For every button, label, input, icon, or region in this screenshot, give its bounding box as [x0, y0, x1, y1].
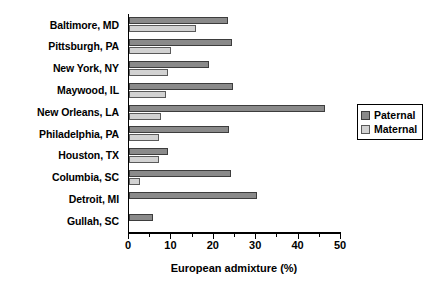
- plot-area: [128, 14, 341, 232]
- bar-group: [129, 188, 341, 210]
- x-axis-major-tick: [255, 232, 256, 239]
- bar-paternal: [129, 148, 168, 155]
- bar-group: [129, 58, 341, 80]
- legend-swatch-maternal: [361, 125, 370, 134]
- bar-group: [129, 36, 341, 58]
- bar-maternal: [129, 47, 171, 54]
- category-label: New Orleans, LA: [0, 101, 124, 123]
- bar-group: [129, 145, 341, 167]
- x-axis-major-tick: [340, 232, 341, 239]
- legend-swatch-paternal: [361, 111, 370, 120]
- bar-paternal: [129, 61, 209, 68]
- bar-paternal: [129, 126, 229, 133]
- x-axis-major-tick: [170, 232, 171, 239]
- bar-paternal: [129, 83, 233, 90]
- bar-maternal: [129, 25, 196, 32]
- x-axis-minor-tick: [192, 232, 193, 237]
- category-label: Columbia, SC: [0, 167, 124, 189]
- bar-group: [129, 14, 341, 36]
- x-axis-tick-label: 40: [291, 240, 303, 251]
- x-axis-line: [128, 232, 340, 234]
- x-axis-tick-label: 30: [249, 240, 261, 251]
- category-label: Houston, TX: [0, 145, 124, 167]
- bar-paternal: [129, 39, 232, 46]
- bar-maternal: [129, 178, 140, 185]
- category-label: Pittsburgh, PA: [0, 36, 124, 58]
- bar-rows: [129, 14, 341, 232]
- x-axis-minor-tick: [234, 232, 235, 237]
- bar-paternal: [129, 17, 228, 24]
- x-axis-major-tick: [213, 232, 214, 239]
- x-axis-minor-tick: [319, 232, 320, 237]
- bar-paternal: [129, 214, 153, 221]
- bar-maternal: [129, 113, 161, 120]
- bar-maternal: [129, 69, 168, 76]
- category-label: Philadelphia, PA: [0, 123, 124, 145]
- x-axis-major-tick: [298, 232, 299, 239]
- bar-group: [129, 210, 341, 232]
- x-axis-tick-label: 50: [334, 240, 346, 251]
- bar-group: [129, 167, 341, 189]
- x-axis-title: European admixture (%): [128, 263, 340, 274]
- legend-item[interactable]: Maternal: [361, 122, 417, 136]
- x-axis-minor-tick: [276, 232, 277, 237]
- legend-label: Paternal: [374, 110, 415, 121]
- legend-label: Maternal: [374, 124, 417, 135]
- bar-maternal: [129, 134, 159, 141]
- bar-group: [129, 101, 341, 123]
- x-axis-tick-label: 0: [125, 240, 131, 251]
- category-label: Gullah, SC: [0, 210, 124, 232]
- bar-maternal: [129, 91, 166, 98]
- x-axis-tick-label: 20: [207, 240, 219, 251]
- bar-group: [129, 123, 341, 145]
- bar-paternal: [129, 192, 257, 199]
- x-axis-minor-tick: [149, 232, 150, 237]
- bar-group: [129, 79, 341, 101]
- legend: PaternalMaternal: [357, 104, 423, 140]
- bar-maternal: [129, 222, 341, 229]
- bar-paternal: [129, 170, 231, 177]
- european-admixture-bar-chart: Baltimore, MDPittsburgh, PANew York, NYM…: [0, 0, 443, 296]
- category-label: Baltimore, MD: [0, 14, 124, 36]
- legend-item[interactable]: Paternal: [361, 108, 417, 122]
- category-label: New York, NY: [0, 58, 124, 80]
- bar-maternal: [129, 200, 341, 207]
- x-axis-tick-labels: 01020304050: [128, 240, 340, 256]
- category-axis-labels: Baltimore, MDPittsburgh, PANew York, NYM…: [0, 14, 124, 232]
- category-label: Maywood, IL: [0, 79, 124, 101]
- bar-maternal: [129, 156, 159, 163]
- category-label: Detroit, MI: [0, 188, 124, 210]
- x-axis-major-tick: [128, 232, 129, 239]
- x-axis-tick-label: 10: [164, 240, 176, 251]
- bar-paternal: [129, 105, 325, 112]
